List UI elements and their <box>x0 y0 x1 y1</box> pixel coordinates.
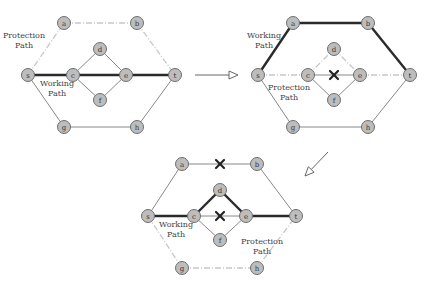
node-label: t <box>174 72 177 80</box>
node-h: h <box>251 262 264 275</box>
node-g: g <box>58 121 71 134</box>
node-label: b <box>255 161 260 169</box>
node-b: b <box>251 158 264 171</box>
node-t: t <box>169 69 182 82</box>
node-d: d <box>328 43 341 56</box>
node-label: d <box>218 187 223 195</box>
node-label: h <box>255 265 260 273</box>
node-d: d <box>214 184 227 197</box>
node-label: g <box>291 124 296 132</box>
node-label: g <box>62 124 67 132</box>
node-g: g <box>176 262 189 275</box>
node-label: e <box>124 72 128 80</box>
node-label: c <box>306 72 310 80</box>
path-label: WorkingPath <box>40 79 74 98</box>
node-f: f <box>94 94 107 107</box>
node-f: f <box>328 94 341 107</box>
node-label: t <box>409 72 412 80</box>
edge-h-t-normal <box>137 75 175 127</box>
node-label: t <box>295 213 298 221</box>
diagram-canvas: abscdeftghabscdeftghabscdeftgh Protectio… <box>0 0 434 291</box>
edge-b-t-protect <box>137 23 175 75</box>
transition-arrow-icon <box>195 71 238 79</box>
path-label: WorkingPath <box>159 220 193 239</box>
node-label: a <box>180 161 184 169</box>
node-label: g <box>180 265 185 273</box>
node-t: t <box>404 69 417 82</box>
node-label: a <box>291 20 295 28</box>
node-a: a <box>287 17 300 30</box>
node-label: e <box>358 72 362 80</box>
node-label: e <box>244 213 248 221</box>
node-h: h <box>362 121 375 134</box>
edge-b-t-normal <box>257 164 296 216</box>
node-label: b <box>135 20 140 28</box>
node-label: h <box>135 124 140 132</box>
failures-layer <box>216 71 338 220</box>
node-d: d <box>94 43 107 56</box>
node-a: a <box>58 17 71 30</box>
node-s: s <box>252 69 265 82</box>
node-label: a <box>62 20 66 28</box>
node-c: c <box>302 69 315 82</box>
node-label: s <box>146 213 150 221</box>
node-h: h <box>131 121 144 134</box>
node-f: f <box>214 234 227 247</box>
node-label: d <box>98 46 103 54</box>
node-g: g <box>287 121 300 134</box>
edge-s-a-normal <box>148 164 182 216</box>
node-t: t <box>290 210 303 223</box>
edge-b-t-working <box>368 23 410 75</box>
node-label: d <box>332 46 337 54</box>
path-label: ProtectionPath <box>3 31 45 50</box>
node-e: e <box>354 69 367 82</box>
node-label: b <box>366 20 371 28</box>
node-b: b <box>362 17 375 30</box>
node-label: s <box>256 72 260 80</box>
node-e: e <box>240 210 253 223</box>
node-label: s <box>26 72 30 80</box>
transition-arrow-icon <box>305 152 328 176</box>
node-s: s <box>142 210 155 223</box>
node-e: e <box>120 69 133 82</box>
node-label: h <box>366 124 371 132</box>
nodes-layer: abscdeftghabscdeftghabscdeftgh <box>22 17 417 275</box>
node-a: a <box>176 158 189 171</box>
node-s: s <box>22 69 35 82</box>
edges-layer <box>28 23 410 268</box>
path-label: ProtectionPath <box>241 237 283 256</box>
node-b: b <box>131 17 144 30</box>
edge-h-t-normal <box>368 75 410 127</box>
